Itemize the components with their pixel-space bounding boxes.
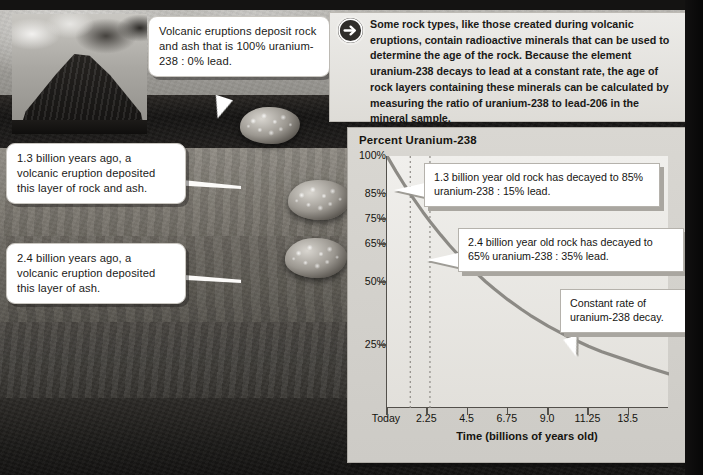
y-tick-mark-75: [379, 218, 386, 220]
x-tick-mark-2: [467, 408, 469, 415]
x-tick-mark-5: [587, 408, 589, 415]
annotation-2-4-billion: 2.4 billion year old rock has decayed to…: [458, 228, 684, 272]
intro-paragraph: Some rock types, like those created duri…: [370, 17, 678, 127]
annotation-tail-13: [394, 183, 425, 197]
x-tick-mark-4: [547, 408, 549, 415]
callout-layer-1-3-billion-text: 1.3 billion years ago, a volcanic erupti…: [17, 151, 175, 195]
y-tick-label-100: 100%: [340, 149, 386, 161]
rock-specimen-lower: [285, 238, 347, 278]
y-tick-mark-25: [379, 344, 386, 346]
annotation-tail-24: [427, 253, 458, 267]
annotation-1-3-billion: 1.3 billion year old rock has decayed to…: [424, 163, 660, 207]
callout-volcanic-eruptions-text: Volcanic eruptions deposit rock and ash …: [159, 24, 319, 68]
y-tick-mark-65: [379, 243, 386, 245]
callout-layer-2-4-billion: 2.4 billion years ago, a volcanic erupti…: [6, 243, 186, 304]
volcano-photo: [12, 14, 147, 134]
rock-specimen-top: [240, 107, 300, 144]
callout-volcanic-eruptions: Volcanic eruptions deposit rock and ash …: [148, 16, 330, 77]
rock-specks: [285, 238, 347, 278]
y-tick-mark-85: [379, 193, 386, 195]
x-axis-tick-labels: Today2.254.56.759.011.2513.5: [350, 412, 680, 428]
chart-title: Percent Uranium-238: [359, 134, 477, 146]
callout-layer-1-3-billion: 1.3 billion years ago, a volcanic erupti…: [6, 143, 186, 204]
arrow-right-circle-icon: [338, 18, 363, 43]
callout-layer-2-4-billion-text: 2.4 billion years ago, a volcanic erupti…: [17, 251, 175, 295]
volcano-ground: [12, 120, 147, 134]
x-tick-mark-6: [628, 408, 630, 415]
x-tick-mark-1: [426, 408, 428, 415]
diagram-page: Volcanic eruptions deposit rock and ash …: [0, 0, 703, 475]
right-border-bar: [685, 0, 703, 475]
x-tick-mark-0: [386, 408, 388, 415]
y-tick-mark-50: [379, 281, 386, 283]
x-tick-mark-3: [507, 408, 509, 415]
x-axis-title: Time (billions of years old): [386, 430, 668, 442]
annotation-constant-decay-rate: Constant rate of uranium-238 decay.: [560, 289, 688, 333]
rock-specks: [240, 107, 300, 144]
top-border-bar: [0, 0, 703, 10]
